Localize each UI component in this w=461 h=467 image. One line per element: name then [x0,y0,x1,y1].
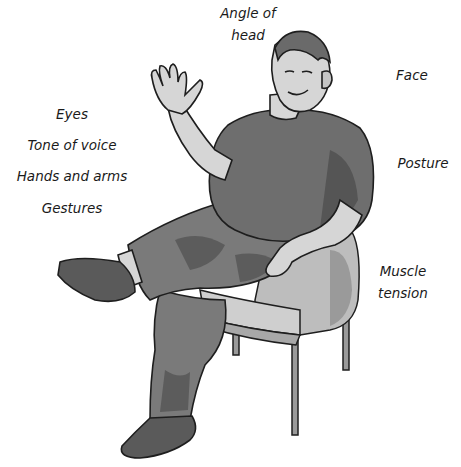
seated-man-illustration [0,0,461,467]
head [272,31,332,111]
label-posture: Posture [397,152,448,174]
label-eyes: Eyes [56,103,88,125]
label-hands-and-arms: Hands and arms [17,165,128,187]
label-muscle-tension: Muscle tension [378,260,428,304]
label-tone-of-voice: Tone of voice [27,134,116,156]
label-line: Gestures [42,197,103,219]
lower-leg [121,290,225,458]
label-line: head [220,24,276,46]
label-face: Face [396,64,428,86]
communication-diagram: Angle of head Face Eyes Tone of voice Ha… [0,0,461,467]
label-line: Angle of [220,2,276,24]
label-line: Tone of voice [27,134,116,156]
label-angle-of-head: Angle of head [220,2,276,46]
label-gestures: Gestures [42,197,103,219]
label-line: tension [378,282,428,304]
label-line: Posture [397,152,448,174]
label-line: Face [396,64,428,86]
raised-arm [152,64,233,180]
label-line: Hands and arms [17,165,128,187]
label-line: Muscle [378,260,428,282]
label-line: Eyes [56,103,88,125]
